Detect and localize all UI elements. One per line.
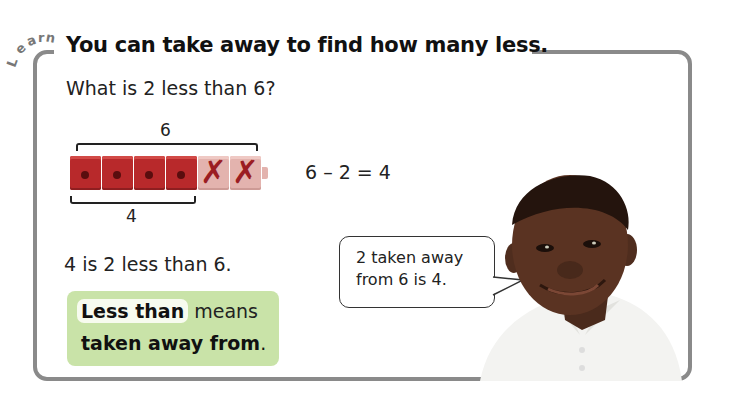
cube-train: ✗ ✗ — [70, 156, 268, 190]
crossed-cube: ✗ — [230, 156, 261, 190]
statement: 4 is 2 less than 6. — [64, 253, 232, 275]
lesson-title: You can take away to find how many less. — [66, 33, 548, 57]
cube — [134, 156, 165, 190]
learn-label: L e a r n — [6, 25, 66, 75]
bubble-line1: 2 taken away — [356, 247, 463, 269]
definition-middle: means — [188, 300, 258, 322]
x-mark-icon: ✗ — [232, 155, 259, 189]
remaining-brace — [70, 196, 196, 204]
x-mark-icon: ✗ — [200, 155, 227, 189]
cube — [166, 156, 197, 190]
highlighted-term: Less than — [77, 299, 188, 323]
definition-line2: taken away from — [81, 332, 260, 354]
definition-box: Less than means taken away from. — [67, 291, 279, 366]
crossed-cube: ✗ — [198, 156, 229, 190]
bubble-line2: from 6 is 4. — [356, 269, 463, 291]
equation: 6 – 2 = 4 — [305, 161, 391, 183]
remaining-label: 4 — [126, 206, 137, 226]
boy-photo — [470, 170, 690, 381]
definition-period: . — [260, 332, 266, 354]
cube-connector — [262, 167, 268, 179]
question-text: What is 2 less than 6? — [66, 77, 276, 99]
cube — [102, 156, 133, 190]
total-label: 6 — [160, 120, 171, 140]
total-brace — [76, 143, 258, 151]
cube — [70, 156, 101, 190]
